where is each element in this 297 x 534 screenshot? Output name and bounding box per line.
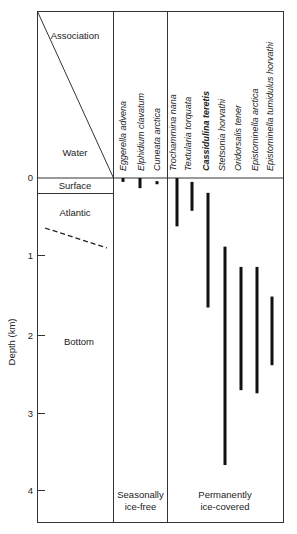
species-label-elphidium-clavatum: Elphidium clavatum (136, 92, 146, 171)
tick-label-3: 3 (28, 408, 33, 419)
species-label-cuneata-arctica: Cuneata arctica (152, 108, 162, 171)
tick-label-0: 0 (28, 172, 33, 183)
water-mass-surface: Surface (59, 180, 92, 191)
water-mass-bottom: Bottom (64, 336, 94, 347)
figure-canvas: Association Water Surface Atlantic Botto… (0, 0, 297, 534)
species-label-trochammina-nana: Trochammina nana (168, 94, 178, 171)
species-label-stetsonia-horvathi: Stetsonia horvathi (217, 98, 227, 171)
range-bar-eggerella-advena (122, 178, 125, 182)
species-label-textularia-torquata: Textularia torquata (183, 97, 193, 171)
species-labels: Eggerella advena Elphidium clavatum Cune… (118, 41, 275, 171)
species-label-eggerella-advena: Eggerella advena (118, 101, 128, 171)
range-bar-cuneata-arctica (156, 181, 159, 184)
species-label-oridorsalis-tener: Oridorsalis tener (233, 104, 243, 171)
atlantic-bottom-boundary (45, 228, 107, 248)
group-label-permanently-line2: ice-covered (200, 501, 249, 512)
figure-frame (38, 12, 284, 523)
range-bar-epistominella-arctica (256, 267, 259, 393)
y-axis: 0 1 2 3 4 Depth (km) (6, 172, 45, 496)
range-bar-trochammina-nana (176, 178, 179, 226)
species-label-epistominella-tumidulus-horvathi: Epistominella tumidulus horvathi (265, 41, 275, 171)
range-bar-textularia-torquata (191, 182, 194, 211)
tick-label-2: 2 (28, 330, 33, 341)
species-label-epistominella-arctica: Epistominella arctica (250, 88, 260, 171)
range-bar-elphidium-clavatum (139, 178, 142, 188)
range-bar-oridorsalis-tener (240, 267, 243, 390)
range-bar-stetsonia-horvathi (224, 247, 227, 465)
tick-label-1: 1 (28, 250, 33, 261)
y-axis-label: Depth (km) (6, 319, 17, 366)
species-label-cassidulina-teretis: Cassidulina teretis (201, 91, 211, 171)
group-label-permanently-line1: Permanently (198, 489, 252, 500)
range-bar-cassidulina-teretis (207, 193, 210, 308)
tick-label-4: 4 (28, 485, 33, 496)
water-mass-atlantic: Atlantic (59, 207, 90, 218)
water-label: Water (63, 147, 88, 158)
group-label-seasonally-line2: ice-free (125, 501, 157, 512)
range-bar-epistominella-tumidulus-horvathi (271, 297, 274, 366)
group-label-seasonally-line1: Seasonally (117, 489, 164, 500)
depth-range-bars (122, 178, 274, 465)
association-label: Association (51, 30, 100, 41)
